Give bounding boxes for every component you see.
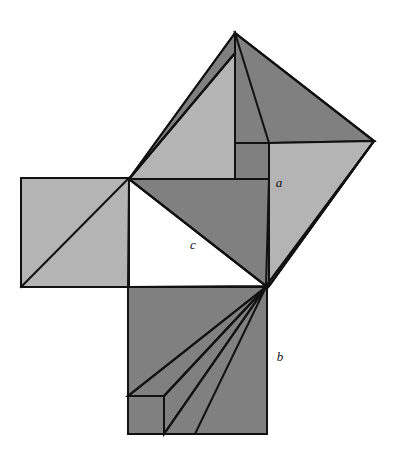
pythagorean-theorem-figure: acb [0, 0, 399, 465]
pythagorean-diagram-canvas: acb [0, 0, 399, 465]
piece-inner-notch [235, 143, 269, 179]
label-b: b [277, 349, 284, 364]
label-c: c [190, 237, 196, 252]
label-a: a [276, 175, 283, 190]
